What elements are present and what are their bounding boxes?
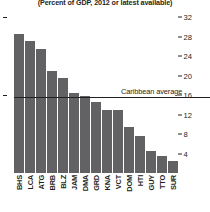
- y-axis-tick-label: 28: [184, 32, 195, 41]
- bar-column: [58, 17, 68, 173]
- y-axis-tick-label: 4: [184, 149, 195, 158]
- x-axis-category: HTI: [135, 174, 145, 212]
- y-axis-left-tick-bottom: [3, 95, 7, 96]
- x-axis-category: DMA: [80, 174, 90, 212]
- bar-blz: [58, 78, 68, 173]
- bar-kna: [102, 110, 112, 173]
- caribbean-average-label: Caribbean average: [121, 87, 182, 96]
- x-axis-label-vct: VCT: [114, 175, 123, 189]
- bar-column: [47, 17, 57, 173]
- x-axis-label-lca: LCA: [25, 175, 34, 190]
- y-axis-tick: 20: [178, 71, 195, 80]
- chart-title: (Percent of GDP, 2012 or latest availabl…: [0, 0, 210, 7]
- x-axis-categories: BHSLCAATGBRBBLZJAMDMAGRDKNAVCTDOMHTIGUYT…: [14, 174, 178, 212]
- x-axis-category: LCA: [25, 174, 35, 212]
- y-axis-tick-mark: [178, 56, 182, 57]
- x-axis-category: KNA: [102, 174, 112, 212]
- x-axis-category: BLZ: [58, 174, 68, 212]
- y-axis-tick: 8: [178, 130, 195, 139]
- y-axis-tick: 32: [178, 13, 195, 22]
- y-axis-tick-mark: [178, 95, 182, 96]
- x-axis-category: VCT: [113, 174, 123, 212]
- x-axis-label-hti: HTI: [136, 175, 145, 186]
- bar-lca: [25, 41, 35, 173]
- bar-grd: [91, 102, 101, 173]
- x-axis-label-kna: KNA: [103, 175, 112, 190]
- chart-container: (Percent of GDP, 2012 or latest availabl…: [0, 0, 210, 212]
- x-axis-category: GUY: [146, 174, 156, 212]
- x-axis-label-grd: GRD: [92, 175, 101, 191]
- y-axis-tick-label: 8: [184, 130, 195, 139]
- x-axis-label-brb: BRB: [47, 175, 56, 190]
- y-axis-tick: 24: [178, 52, 195, 61]
- y-axis-tick-label: 24: [184, 52, 195, 61]
- x-axis-label-bhs: BHS: [14, 175, 23, 190]
- y-axis-tick-mark: [178, 75, 182, 76]
- y-axis-tick-label: 32: [184, 13, 195, 22]
- x-axis-category: ATG: [36, 174, 46, 212]
- x-axis-category: JAM: [69, 174, 79, 212]
- bar-brb: [47, 71, 57, 173]
- y-axis-tick-mark: [178, 36, 182, 37]
- bar-hti: [135, 136, 145, 173]
- x-axis-category: BHS: [14, 174, 24, 212]
- bar-column: [69, 17, 79, 173]
- y-axis-tick: 28: [178, 32, 195, 41]
- y-axis-tick-mark: [178, 114, 182, 115]
- y-axis-tick-label: 16: [184, 91, 195, 100]
- y-axis-tick-mark: [178, 134, 182, 135]
- x-axis-category: DOM: [124, 174, 134, 212]
- bar-tto: [157, 156, 167, 173]
- bar-sur: [168, 161, 178, 173]
- bar-atg: [36, 49, 46, 173]
- y-axis: 32282420161284: [178, 17, 210, 173]
- y-axis-tick-label: 12: [184, 110, 195, 119]
- x-axis-label-atg: ATG: [36, 175, 45, 189]
- y-axis-tick: 12: [178, 110, 195, 119]
- bar-column: [91, 17, 101, 173]
- y-axis-tick: 16: [178, 91, 195, 100]
- x-axis-label-tto: TTO: [158, 175, 167, 189]
- x-axis-label-dma: DMA: [81, 175, 90, 191]
- x-axis-label-dom: DOM: [125, 175, 134, 192]
- bar-jam: [69, 93, 79, 173]
- bar-column: [102, 17, 112, 173]
- bar-column: [36, 17, 46, 173]
- y-axis-tick-mark: [178, 17, 182, 18]
- bar-column: [14, 17, 24, 173]
- x-axis-category: SUR: [168, 174, 178, 212]
- y-axis-tick: 4: [178, 149, 195, 158]
- y-axis-tick-label: 20: [184, 71, 195, 80]
- bar-vct: [113, 110, 123, 173]
- y-axis-tick-mark: [178, 153, 182, 154]
- x-axis-label-blz: BLZ: [58, 175, 67, 189]
- bar-column: [80, 17, 90, 173]
- bar-dom: [124, 127, 134, 173]
- x-axis-category: TTO: [157, 174, 167, 212]
- x-axis-category: GRD: [91, 174, 101, 212]
- bar-guy: [146, 151, 156, 173]
- x-axis-label-sur: SUR: [169, 175, 178, 190]
- x-axis-label-jam: JAM: [69, 175, 78, 190]
- x-axis-label-guy: GUY: [147, 175, 156, 190]
- bar-dma: [80, 96, 90, 173]
- bar-bhs: [14, 34, 24, 173]
- x-axis-category: BRB: [47, 174, 57, 212]
- bar-column: [25, 17, 35, 173]
- y-axis-left-tick-top: [3, 17, 7, 18]
